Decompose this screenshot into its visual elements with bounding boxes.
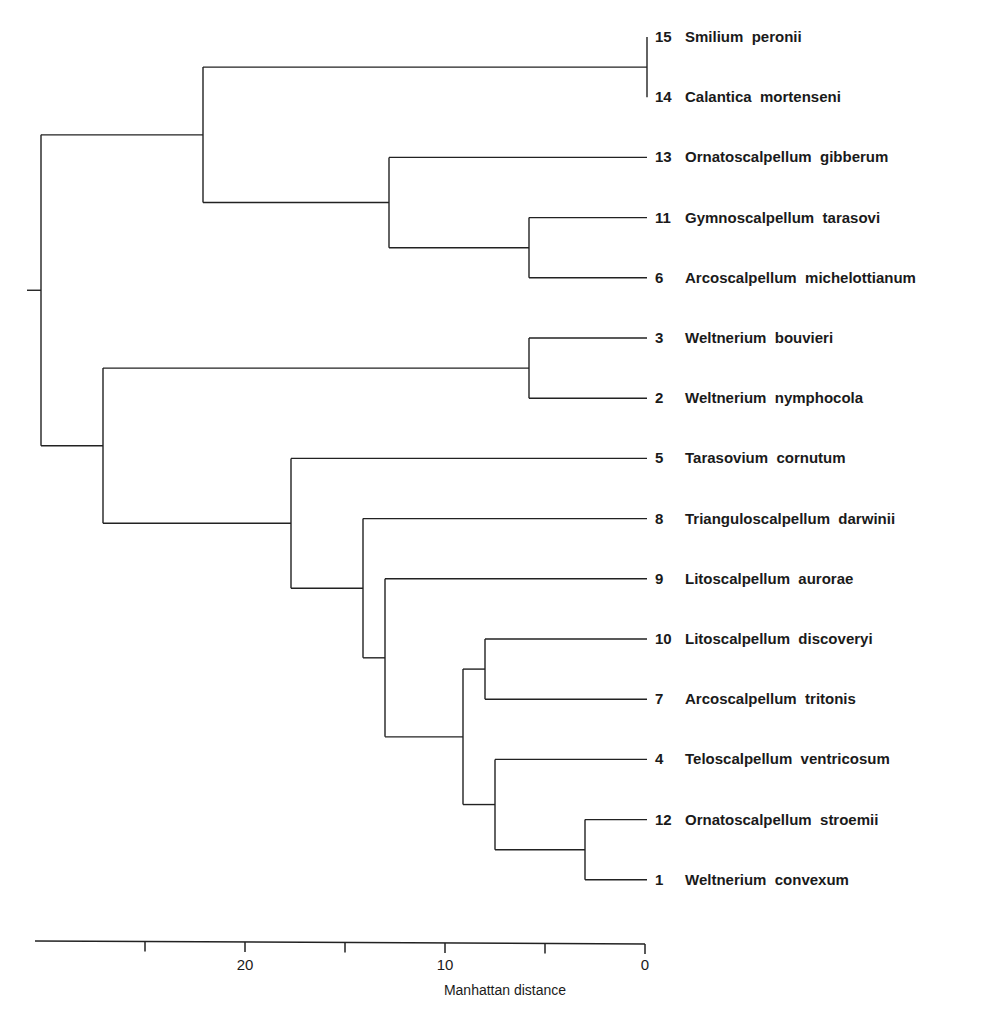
leaf-number: 6 bbox=[655, 269, 663, 286]
leaf-taxon-name: Gymnoscalpellum tarasovi bbox=[685, 209, 880, 226]
leaf-number: 9 bbox=[655, 570, 663, 587]
x-tick-label: 0 bbox=[641, 956, 649, 973]
leaf-taxon-name: Tarasovium cornutum bbox=[685, 449, 846, 466]
dendrogram-branches bbox=[27, 37, 647, 880]
leaf-taxon-name: Litoscalpellum aurorae bbox=[685, 570, 853, 587]
x-tick-label: 10 bbox=[437, 956, 454, 973]
dendrogram-chart: 15Smilium peronii14Calantica mortenseni1… bbox=[0, 0, 981, 1017]
leaf-taxon-name: Smilium peronii bbox=[685, 28, 802, 45]
leaf-taxon-name: Weltnerium nymphocola bbox=[685, 389, 864, 406]
leaf-taxon-name: Trianguloscalpellum darwinii bbox=[685, 510, 895, 527]
leaf-taxon-name: Weltnerium bouvieri bbox=[685, 329, 833, 346]
leaf-taxon-name: Ornatoscalpellum stroemii bbox=[685, 811, 878, 828]
leaf-number: 7 bbox=[655, 690, 663, 707]
leaf-taxon-name: Weltnerium convexum bbox=[685, 871, 849, 888]
x-axis-ticks: 20100 bbox=[145, 942, 649, 973]
leaf-labels: 15Smilium peronii14Calantica mortenseni1… bbox=[655, 28, 916, 888]
leaf-number: 2 bbox=[655, 389, 663, 406]
leaf-number: 4 bbox=[655, 750, 664, 767]
leaf-taxon-name: Calantica mortenseni bbox=[685, 88, 841, 105]
x-axis-line bbox=[35, 941, 645, 944]
x-axis-title: Manhattan distance bbox=[444, 982, 566, 998]
leaf-number: 8 bbox=[655, 510, 663, 527]
leaf-taxon-name: Litoscalpellum discoveryi bbox=[685, 630, 873, 647]
leaf-number: 13 bbox=[655, 148, 672, 165]
leaf-number: 11 bbox=[655, 209, 671, 226]
leaf-number: 3 bbox=[655, 329, 663, 346]
leaf-taxon-name: Arcoscalpellum michelottianum bbox=[685, 269, 916, 286]
leaf-number: 14 bbox=[655, 88, 672, 105]
leaf-number: 1 bbox=[655, 871, 663, 888]
leaf-number: 5 bbox=[655, 449, 663, 466]
leaf-number: 12 bbox=[655, 811, 672, 828]
leaf-taxon-name: Teloscalpellum ventricosum bbox=[685, 750, 890, 767]
x-tick-label: 20 bbox=[237, 956, 254, 973]
leaf-number: 10 bbox=[655, 630, 672, 647]
leaf-number: 15 bbox=[655, 28, 672, 45]
x-axis: 20100 Manhattan distance bbox=[35, 941, 649, 998]
leaf-taxon-name: Arcoscalpellum tritonis bbox=[685, 690, 856, 707]
leaf-taxon-name: Ornatoscalpellum gibberum bbox=[685, 148, 888, 165]
